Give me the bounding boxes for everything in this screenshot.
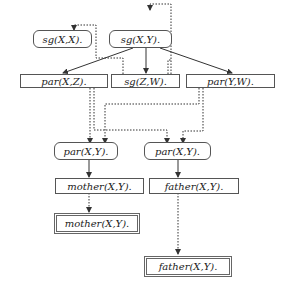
node-label: par(X,Y). [155, 146, 200, 157]
node-mother-fact: mother(X,Y). [54, 213, 140, 234]
node-label: mother(X,Y). [65, 218, 130, 229]
node-label: sg(X,Y). [121, 34, 160, 45]
node-label: mother(X,Y). [67, 181, 132, 192]
node-par-xz: par(X,Z). [20, 74, 108, 88]
node-par-xy-right: par(X,Y). [144, 142, 211, 160]
edge-paryw-parxyr [183, 88, 203, 143]
node-label: father(X,Y). [159, 261, 218, 272]
node-label: father(X,Y). [165, 181, 224, 192]
node-sg-xx: sg(X,X). [33, 30, 92, 48]
node-father-fact: father(X,Y). [144, 256, 232, 277]
node-father-xy: father(X,Y). [149, 178, 239, 194]
edge-paryw-parxyl [105, 88, 199, 143]
node-par-yw: par(Y,W). [186, 74, 275, 88]
node-par-xy-left: par(X,Y). [54, 142, 118, 160]
node-label: sg(Z,W). [124, 76, 167, 87]
node-label: par(Y,W). [207, 76, 254, 87]
node-sg-zw: sg(Z,W). [111, 74, 180, 88]
node-sg-xy: sg(X,Y). [109, 30, 172, 48]
node-mother-xy: mother(X,Y). [55, 178, 144, 194]
derivation-diagram: sg(X,X). sg(X,Y). par(X,Z). sg(Z,W). par… [0, 0, 291, 292]
node-label: par(X,Z). [41, 76, 86, 87]
node-label: par(X,Y). [63, 146, 108, 157]
node-label: sg(X,X). [43, 34, 83, 45]
